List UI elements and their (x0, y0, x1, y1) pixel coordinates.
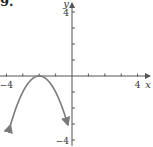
problem-number: 9. (0, 0, 14, 9)
svg-text:x: x (145, 79, 151, 90)
parabola-curve (11, 76, 68, 125)
svg-text:4: 4 (63, 8, 69, 18)
coordinate-plane: −444−4xy (0, 0, 153, 147)
graph-figure: 9. −444−4xy (0, 0, 153, 147)
svg-text:y: y (62, 0, 69, 9)
svg-text:4: 4 (135, 80, 141, 90)
svg-text:−4: −4 (0, 80, 13, 90)
axis-labels: −444−4xy (0, 0, 151, 146)
svg-text:−4: −4 (56, 136, 70, 146)
